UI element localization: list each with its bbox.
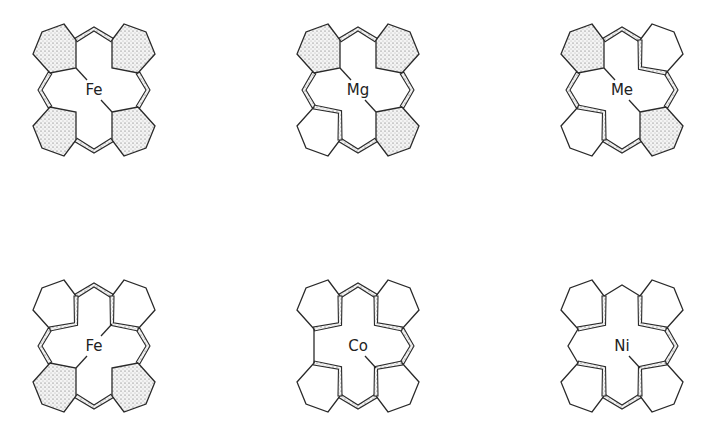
conjugation-band-left — [566, 72, 580, 108]
porphyrin-molecule-mg: Mg — [292, 22, 426, 160]
pyrrole-ring-br-shaded — [112, 363, 155, 412]
metal-bond-tr — [101, 324, 112, 336]
conjugation-band-left — [302, 72, 316, 108]
pyrrole-ring-br-shaded — [112, 107, 155, 156]
conjugation-band-right — [400, 328, 414, 364]
conjugation-band-right — [400, 72, 414, 108]
pyrrole-ring-bl — [561, 363, 604, 412]
conjugation-band-top — [339, 283, 377, 298]
pyrrole-ring-tl — [33, 280, 76, 329]
conjugation-band-bottom — [603, 138, 641, 153]
porphyrin-molecule-fe: Fe — [28, 278, 162, 416]
metal-bond-br — [101, 100, 112, 112]
pyrrole-ring-br — [640, 363, 683, 412]
metal-label: Me — [611, 81, 633, 99]
pyrrole-ring-tl-shaded — [297, 24, 340, 73]
conjugation-band-top — [603, 27, 641, 42]
pyrrole-ring-tr-shaded — [376, 24, 419, 73]
conjugation-band-bottom — [75, 138, 113, 153]
conjugation-band-right — [664, 72, 678, 108]
porphyrin-molecule-fe: Fe — [28, 22, 162, 160]
pyrrole-ring-bl — [297, 107, 340, 156]
pyrrole-ring-tr — [640, 24, 683, 73]
pyrrole-ring-tr — [640, 280, 683, 329]
metal-bond-bl — [76, 356, 87, 368]
meso-bridge-top — [604, 285, 640, 296]
pyrrole-ring-bl — [297, 363, 340, 412]
metal-label: Mg — [347, 81, 369, 99]
metal-bond-br — [365, 356, 376, 368]
conjugation-band-left — [38, 328, 52, 364]
conjugation-band-right — [664, 328, 678, 364]
conjugation-band-bottom — [75, 394, 113, 409]
pyrrole-ring-tl — [297, 280, 340, 329]
metal-bond-br — [629, 356, 640, 368]
conjugation-band-right — [136, 72, 150, 108]
porphyrin-molecule-me: Me — [556, 22, 690, 160]
metal-label: Fe — [85, 81, 102, 99]
pyrrole-ring-bl — [561, 107, 604, 156]
metal-label: Fe — [85, 337, 102, 355]
meso-bridge-left — [568, 329, 578, 363]
conjugation-band-top — [75, 283, 113, 298]
pyrrole-ring-bl-shaded — [33, 363, 76, 412]
conjugation-band-top — [339, 27, 377, 42]
conjugation-band-top — [75, 27, 113, 42]
conjugation-band-bottom — [339, 138, 377, 153]
pyrrole-ring-tr — [376, 280, 419, 329]
pyrrole-ring-tl-shaded — [33, 24, 76, 73]
metal-bond-tl — [604, 68, 615, 80]
pyrrole-ring-tl-shaded — [561, 24, 604, 73]
porphyrin-molecule-co: Co — [292, 278, 426, 416]
metal-label: Co — [348, 337, 368, 355]
pyrrole-ring-tr-shaded — [112, 24, 155, 73]
metal-bond-br — [365, 100, 376, 112]
conjugation-band-bottom — [603, 394, 641, 409]
metal-bond-tl — [76, 68, 87, 80]
pyrrole-ring-br — [376, 363, 419, 412]
pyrrole-ring-tr — [112, 280, 155, 329]
pyrrole-ring-br-shaded — [376, 107, 419, 156]
pyrrole-ring-br-shaded — [640, 107, 683, 156]
metal-bond-br — [629, 100, 640, 112]
metal-label: Ni — [614, 337, 629, 355]
metal-bond-tl — [340, 68, 351, 80]
porphyrin-molecule-ni: Ni — [556, 278, 690, 416]
pyrrole-ring-bl-shaded — [33, 107, 76, 156]
conjugation-band-left — [38, 72, 52, 108]
conjugation-band-bottom — [339, 394, 377, 409]
pyrrole-ring-tl — [561, 280, 604, 329]
conjugation-band-right — [136, 328, 150, 364]
